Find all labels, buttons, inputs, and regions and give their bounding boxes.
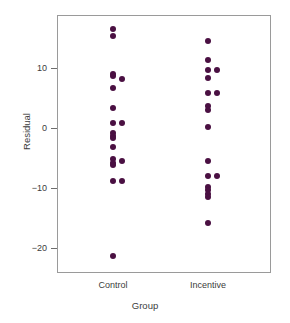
plot-area bbox=[57, 15, 271, 273]
data-point bbox=[205, 124, 211, 130]
x-axis-tick-label-control: Control bbox=[73, 280, 153, 290]
data-point bbox=[205, 67, 211, 73]
data-point bbox=[205, 173, 211, 179]
data-point bbox=[110, 73, 116, 79]
data-point bbox=[205, 158, 211, 164]
y-axis-tick bbox=[51, 188, 57, 189]
y-axis-tick-label: −10 bbox=[32, 183, 47, 193]
data-point bbox=[205, 107, 211, 113]
data-point bbox=[205, 38, 211, 44]
data-point bbox=[214, 67, 220, 73]
data-point bbox=[119, 158, 125, 164]
data-point bbox=[205, 194, 211, 200]
y-axis-tick bbox=[51, 128, 57, 129]
y-axis-tick-label: −20 bbox=[32, 243, 47, 253]
chart-figure: Residual 100−10−20 ControlIncentive Grou… bbox=[0, 0, 290, 323]
y-axis-tick bbox=[51, 248, 57, 249]
data-point bbox=[110, 105, 116, 111]
y-axis-tick-label: 10 bbox=[37, 63, 47, 73]
y-axis-tick bbox=[51, 68, 57, 69]
y-axis-title: Residual bbox=[21, 87, 32, 177]
data-point bbox=[110, 26, 116, 32]
data-point bbox=[119, 76, 125, 82]
x-axis-title: Group bbox=[0, 300, 290, 311]
data-point bbox=[110, 178, 116, 184]
data-point bbox=[119, 178, 125, 184]
data-point bbox=[110, 253, 116, 259]
y-axis-tick-label: 0 bbox=[42, 123, 47, 133]
data-point bbox=[214, 173, 220, 179]
x-axis-tick-label-incentive: Incentive bbox=[168, 280, 248, 290]
